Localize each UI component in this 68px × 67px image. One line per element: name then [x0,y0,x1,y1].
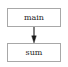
arrowhead-down-icon [32,36,37,43]
graph-edge-main-to-sum [28,25,40,45]
diagram-canvas: main sum [0,0,68,67]
graph-node-sum-label: sum [26,48,43,57]
graph-node-sum[interactable]: sum [7,43,61,62]
graph-node-main-label: main [24,13,44,22]
